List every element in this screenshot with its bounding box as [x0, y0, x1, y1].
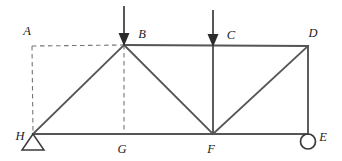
truss-diagram-figure: A B C D E F G H	[0, 0, 342, 161]
node-label-F: F	[206, 142, 215, 156]
node-labels: A B C D E F G H	[14, 24, 327, 156]
node-label-E: E	[318, 130, 327, 144]
node-label-H: H	[14, 129, 25, 143]
supports	[22, 134, 316, 150]
node-label-B: B	[138, 27, 146, 41]
node-label-A: A	[22, 24, 31, 38]
truss-members	[33, 45, 308, 134]
roller-support-E-icon	[301, 134, 316, 149]
top-chord-B-D-member	[124, 45, 308, 46]
pin-support-H-icon	[22, 134, 44, 150]
dashed-A-H-line	[32, 46, 33, 134]
load-arrow-at-C-icon	[208, 10, 219, 47]
truss-diagram-canvas: A B C D E F G H	[0, 0, 342, 161]
applied-loads	[119, 6, 219, 47]
node-label-D: D	[307, 26, 317, 40]
load-arrow-at-B-icon	[119, 6, 130, 46]
diagonal-H-B-member	[33, 45, 124, 134]
node-label-C: C	[227, 28, 236, 42]
diagonal-B-F-member	[124, 45, 213, 134]
node-label-G: G	[117, 142, 126, 156]
dashed-A-B-line	[32, 45, 124, 46]
diagonal-F-D-member	[213, 46, 308, 134]
